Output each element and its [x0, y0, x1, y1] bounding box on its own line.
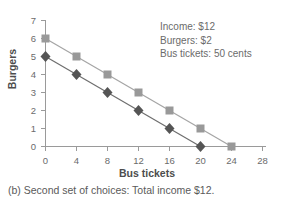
y-tick-label: 5: [22, 52, 36, 62]
x-tick-label: 0: [36, 156, 56, 166]
y-tick-label: 3: [22, 88, 36, 98]
y-tick-label: 1: [22, 124, 36, 134]
chart-annotation-block: Income: $12 Burgers: $2 Bus tickets: 50 …: [160, 20, 252, 61]
chart-plot-area: 7 6 5 4 3 2 1 0 0 4 8 12 16 20 24 28 Bur…: [0, 0, 296, 180]
y-tick-label: 0: [22, 142, 36, 152]
annotation-income: Income: $12: [160, 20, 252, 34]
x-tick-label: 20: [191, 156, 211, 166]
x-tick-label: 4: [67, 156, 87, 166]
series-dark-line: [46, 57, 201, 147]
x-tick-label: 24: [222, 156, 242, 166]
x-tick-label: 16: [160, 156, 180, 166]
x-axis-title: Bus tickets: [45, 167, 249, 179]
figure-panel-b: 7 6 5 4 3 2 1 0 0 4 8 12 16 20 24 28 Bur…: [0, 0, 296, 201]
y-tick-label: 2: [22, 106, 36, 116]
figure-caption: (b) Second set of choices: Total income …: [8, 184, 214, 196]
annotation-bus-ticket-price: Bus tickets: 50 cents: [160, 47, 252, 61]
annotation-burgers-price: Burgers: $2: [160, 34, 252, 48]
y-tick-label: 4: [22, 70, 36, 80]
x-tick-label: 12: [129, 156, 149, 166]
y-axis-title: Burgers: [6, 33, 18, 105]
y-tick-label: 7: [22, 16, 36, 26]
x-tick-label: 8: [98, 156, 118, 166]
x-tick-label: 28: [253, 156, 273, 166]
y-tick-label: 6: [22, 34, 36, 44]
